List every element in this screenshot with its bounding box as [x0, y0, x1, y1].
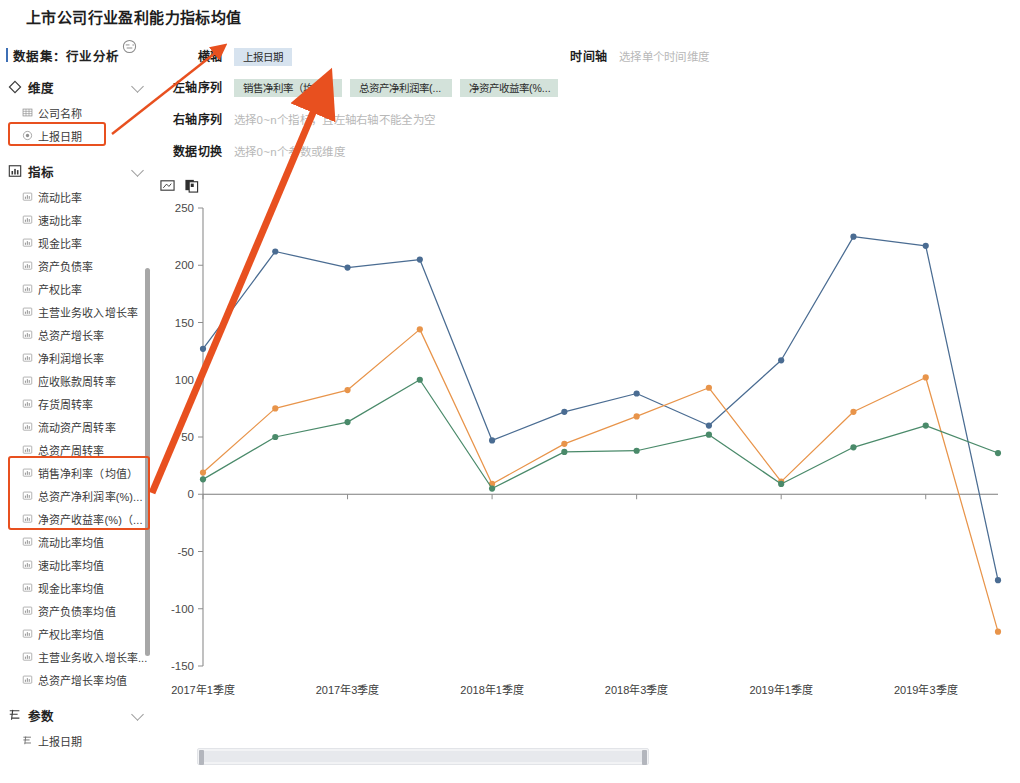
zoom-slider-handle-right[interactable]: [642, 750, 647, 765]
series-point-0-10[interactable]: [923, 243, 929, 249]
series-point-0-7[interactable]: [706, 422, 712, 428]
metric-icon: [22, 421, 33, 432]
series-point-1-5[interactable]: [561, 441, 567, 447]
series-point-2-5[interactable]: [561, 449, 567, 455]
time-axis-values[interactable]: 选择单个时间维度: [619, 48, 709, 66]
sidebar-field-metric-12[interactable]: 销售净利率（均值）: [22, 462, 150, 483]
series-point-0-5[interactable]: [561, 409, 567, 415]
chevron-down-icon[interactable]: [131, 708, 144, 721]
data-switch-values[interactable]: 选择0~n个参数或维度: [234, 143, 345, 161]
series-point-0-0[interactable]: [200, 346, 206, 352]
chevron-down-icon[interactable]: [131, 80, 144, 93]
series-point-2-4[interactable]: [489, 485, 495, 491]
sidebar-field-metric-7[interactable]: 净利润增长率: [22, 347, 150, 368]
sidebar-field-metric-20[interactable]: 主营业务收入增长率...: [22, 646, 150, 667]
sidebar-field-metric-0[interactable]: 流动比率: [22, 186, 150, 207]
sidebar-field-label: 应收账款周转率: [38, 373, 116, 389]
sidebar-field-metric-1[interactable]: 速动比率: [22, 209, 150, 230]
sidebar-field-metric-5[interactable]: 主营业务收入增长率: [22, 301, 150, 322]
sidebar-field-metric-8[interactable]: 应收账款周转率: [22, 370, 150, 391]
sidebar-field-dimension-0[interactable]: 公司名称: [22, 102, 150, 123]
series-point-2-2[interactable]: [344, 419, 350, 425]
series-line-0[interactable]: [203, 237, 998, 581]
sidebar-field-metric-14[interactable]: 净资产收益率(%)（...: [22, 508, 150, 529]
chevron-down-icon[interactable]: [131, 164, 144, 177]
x-axis-values[interactable]: 上报日期: [234, 48, 292, 66]
param-icon: [8, 708, 22, 722]
sidebar-field-metric-16[interactable]: 速动比率均值: [22, 554, 150, 575]
sidebar-field-label: 速动比率均值: [38, 557, 105, 573]
series-point-1-9[interactable]: [850, 409, 856, 415]
series-line-1[interactable]: [203, 329, 998, 631]
series-point-0-11[interactable]: [995, 577, 1001, 583]
sidebar-field-metric-6[interactable]: 总资产增长率: [22, 324, 150, 345]
data-switch-label: 数据切换: [160, 143, 222, 161]
sidebar-field-metric-18[interactable]: 资产负债率均值: [22, 600, 150, 621]
sidebar-field-label: 主营业务收入增长率...: [38, 649, 147, 665]
series-point-2-3[interactable]: [417, 377, 423, 383]
series-point-1-1[interactable]: [272, 405, 278, 411]
right-series-values[interactable]: 选择0~n个指标，且左轴右轴不能全为空: [234, 111, 435, 129]
sidebar-section-dimension[interactable]: 维度: [8, 76, 148, 98]
edit-image-icon[interactable]: [160, 178, 175, 193]
dataset-label: 数据集：行业分析: [13, 46, 119, 65]
sidebar-field-metric-19[interactable]: 产权比率均值: [22, 623, 150, 644]
table-icon: [22, 107, 33, 118]
series-point-0-3[interactable]: [417, 256, 423, 262]
chart-zoom-slider[interactable]: [197, 748, 649, 765]
sidebar-field-metric-13[interactable]: 总资产净利润率(%)...: [22, 485, 150, 506]
series-point-2-1[interactable]: [272, 434, 278, 440]
metric-icon: [22, 260, 33, 271]
left-series-tag-2[interactable]: 总资产净利润率(...: [350, 79, 452, 97]
copy-icon[interactable]: [184, 178, 199, 193]
line-chart[interactable]: 250200150100500-50-100-1502017年1季度2017年3…: [155, 196, 1020, 756]
sidebar-field-metric-17[interactable]: 现金比率均值: [22, 577, 150, 598]
y-axis-tick-label: -100: [171, 603, 194, 615]
sidebar-field-dimension-1[interactable]: 上报日期: [22, 125, 150, 146]
series-point-1-2[interactable]: [344, 387, 350, 393]
sidebar-field-metric-9[interactable]: 存货周转率: [22, 393, 150, 414]
sidebar-field-metric-21[interactable]: 总资产增长率均值: [22, 669, 150, 690]
series-point-1-3[interactable]: [417, 326, 423, 332]
series-point-1-11[interactable]: [995, 629, 1001, 635]
series-point-1-6[interactable]: [634, 413, 640, 419]
series-point-0-1[interactable]: [272, 248, 278, 254]
sidebar-field-metric-4[interactable]: 产权比率: [22, 278, 150, 299]
sidebar-section-metric[interactable]: 指标: [8, 160, 148, 182]
series-point-0-6[interactable]: [634, 390, 640, 396]
sidebar-field-metric-2[interactable]: 现金比率: [22, 232, 150, 253]
series-point-0-2[interactable]: [344, 264, 350, 270]
series-point-1-10[interactable]: [923, 374, 929, 380]
sidebar-field-param-0[interactable]: 上报日期: [22, 730, 150, 751]
refresh-icon[interactable]: [122, 39, 137, 54]
sidebar-section-label: 参数: [28, 706, 54, 725]
series-point-2-7[interactable]: [706, 432, 712, 438]
x-axis-tick-label: 2019年3季度: [894, 683, 958, 696]
metric-icon: [22, 582, 33, 593]
sidebar-field-metric-3[interactable]: 资产负债率: [22, 255, 150, 276]
app-root: 上市公司行业盈利能力指标均值 数据集：行业分析 维度公司名称上报日期指标流动比率…: [0, 0, 1020, 783]
sidebar-field-metric-11[interactable]: 总资产周转率: [22, 439, 150, 460]
series-point-0-9[interactable]: [850, 234, 856, 240]
chart-canvas: 250200150100500-50-100-1502017年1季度2017年3…: [155, 196, 1020, 756]
series-point-2-6[interactable]: [634, 448, 640, 454]
series-point-2-10[interactable]: [923, 422, 929, 428]
series-point-2-0[interactable]: [200, 476, 206, 482]
sidebar-field-metric-10[interactable]: 流动资产周转率: [22, 416, 150, 437]
series-point-2-8[interactable]: [778, 481, 784, 487]
series-point-2-11[interactable]: [995, 450, 1001, 456]
series-point-1-0[interactable]: [200, 469, 206, 475]
left-series-tag-1[interactable]: 销售净利率（均...: [234, 79, 342, 97]
series-point-1-7[interactable]: [706, 385, 712, 391]
left-series-tag-3[interactable]: 净资产收益率(%...: [460, 79, 558, 97]
sidebar-section-param[interactable]: 参数: [8, 704, 148, 726]
zoom-slider-handle-left[interactable]: [199, 750, 204, 765]
series-point-2-9[interactable]: [850, 444, 856, 450]
page-title: 上市公司行业盈利能力指标均值: [26, 6, 242, 27]
series-point-0-4[interactable]: [489, 437, 495, 443]
sidebar-field-metric-15[interactable]: 流动比率均值: [22, 531, 150, 552]
sidebar-scrollbar[interactable]: [145, 268, 150, 656]
series-point-0-8[interactable]: [778, 357, 784, 363]
left-series-values[interactable]: 销售净利率（均... 总资产净利润率(... 净资产收益率(%...: [234, 79, 558, 97]
x-axis-tag[interactable]: 上报日期: [234, 48, 292, 66]
